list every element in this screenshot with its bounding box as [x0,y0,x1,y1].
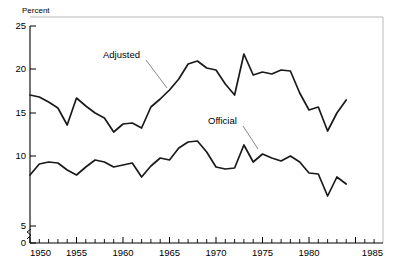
y-tick-labels: 25 20 15 10 5 0 [15,20,26,248]
line-chart: 25 20 15 10 5 0 Percent [0,0,397,272]
x-tick-label-1980: 1980 [298,247,319,258]
y-tick-label-0: 0 [21,237,26,248]
chart-frame [30,17,383,243]
x-tick-label-1955: 1955 [66,247,87,258]
y-tick-label-10: 10 [15,150,26,161]
series-label-official: Official [208,115,237,126]
y-tick-label-15: 15 [15,107,26,118]
x-tick-label-1960: 1960 [112,247,133,258]
x-tick-label-1985: 1985 [362,247,383,258]
y-tick-label-25: 25 [15,20,26,31]
adjusted-leader-line [146,60,167,88]
x-tick-labels: 1950 1955 1960 1965 1970 1975 1980 1985 [30,247,383,258]
series-line-official [30,141,346,196]
chart-container: 25 20 15 10 5 0 Percent [0,0,397,272]
x-minor-tick-marks [39,239,374,243]
x-major-tick-marks [30,237,356,243]
y-tick-label-20: 20 [15,63,26,74]
official-leader-line [243,126,258,149]
x-tick-label-1950: 1950 [30,247,51,258]
x-tick-label-1975: 1975 [252,247,273,258]
series-line-adjusted [30,54,346,132]
series-lines [30,54,346,196]
annotation-leaders [146,60,258,149]
y-axis-title: Percent [22,6,50,15]
x-tick-label-1965: 1965 [159,247,180,258]
y-tick-marks [30,26,36,243]
series-label-adjusted: Adjusted [103,49,140,60]
y-tick-label-5: 5 [21,220,26,231]
x-tick-label-1970: 1970 [205,247,226,258]
